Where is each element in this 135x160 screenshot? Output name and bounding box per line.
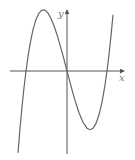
cubic-curve xyxy=(18,10,113,153)
y-axis-label: y xyxy=(57,8,64,19)
cubic-graph: y x xyxy=(0,0,135,160)
x-axis-label: x xyxy=(119,72,125,83)
